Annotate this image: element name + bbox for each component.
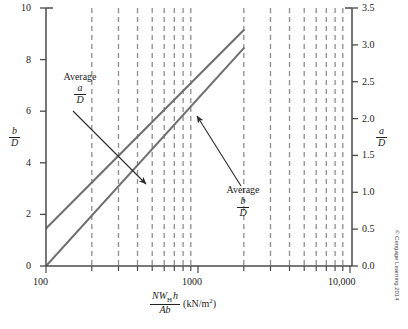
ytick-left-6: 6 (26, 106, 31, 116)
ytick-left-8: 8 (26, 55, 31, 65)
annotation-average-b-d: Average b D (215, 185, 271, 218)
axis-label-x: NWHh Ab (kN/m2) (150, 291, 216, 316)
axis-label-left: b D (9, 126, 20, 148)
axis-label-x-numerator: NWHh (150, 291, 180, 304)
xtick-10000: 10,000 (328, 277, 356, 287)
ytick-left-4: 4 (26, 158, 31, 168)
axis-label-right-numerator: a (376, 126, 387, 137)
annotation-average-a-d-denominator: D (74, 94, 85, 106)
axis-label-right-denominator: D (376, 137, 387, 149)
ytick-right-0-0: 0.0 (362, 261, 375, 271)
figure-container: 0 2 4 6 8 10 0.0 0.5 1.0 1.5 2.0 2.5 3.0… (0, 0, 408, 329)
ytick-right-3-0: 3.0 (362, 40, 375, 50)
ticks-bottom (46, 266, 350, 273)
ytick-left-10: 10 (21, 3, 31, 13)
copyright-notice: © Cengage Learning 2014 (394, 230, 400, 300)
data-series (46, 30, 244, 266)
ticks-right (352, 8, 358, 266)
ytick-left-0: 0 (26, 261, 31, 271)
ytick-left-2: 2 (26, 209, 31, 219)
axis-label-x-num-main: NW (152, 290, 167, 301)
annotation-average-a-d-label: Average (52, 72, 108, 82)
axis-label-left-numerator: b (9, 126, 20, 137)
annotation-average-a-d-numerator: a (74, 83, 85, 94)
xtick-1000: 1000 (182, 277, 202, 287)
axis-label-left-denominator: D (9, 137, 20, 149)
axis-label-x-units-exponent: 2 (209, 297, 213, 305)
ticks-left (40, 8, 46, 266)
axis-label-x-num-tail: h (173, 290, 178, 301)
ytick-right-1-5: 1.5 (362, 150, 375, 160)
ytick-right-0-5: 0.5 (362, 224, 375, 234)
annotation-average-b-d-label: Average (215, 185, 271, 195)
axis-label-x-units-text: kN/m (186, 299, 209, 310)
axis-label-x-denominator: Ab (150, 304, 180, 316)
gridlines-vertical (92, 8, 343, 266)
ytick-right-2-0: 2.0 (362, 114, 375, 124)
axis-label-x-num-subscript: H (167, 296, 172, 304)
arrow-average-a-d (73, 111, 146, 184)
axis-label-right: a D (376, 126, 387, 148)
annotation-average-b-d-denominator: D (237, 207, 248, 219)
ytick-right-1-0: 1.0 (362, 187, 375, 197)
ytick-right-2-5: 2.5 (362, 77, 375, 87)
ytick-right-3-5: 3.5 (362, 3, 375, 13)
arrow-average-b-d (197, 116, 241, 186)
axis-label-x-units: (kN/m2) (183, 297, 216, 309)
annotation-average-a-d: Average a D (52, 72, 108, 105)
annotation-average-b-d-numerator: b (237, 196, 248, 207)
xtick-100: 100 (33, 277, 48, 287)
